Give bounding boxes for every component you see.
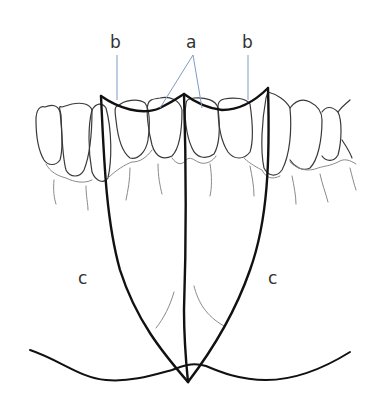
gum-line xyxy=(46,150,356,328)
center-midline xyxy=(184,94,188,382)
right-mandible-line xyxy=(188,88,269,382)
chin-curve xyxy=(30,350,350,380)
label-b-left: b xyxy=(110,32,121,52)
label-c-right: c xyxy=(268,268,277,288)
label-c-left: c xyxy=(78,268,87,288)
teeth-crowns xyxy=(36,92,352,181)
left-mandible-line xyxy=(101,96,188,382)
label-a: a xyxy=(186,32,196,52)
dental-diagram: b a b c c xyxy=(0,0,377,405)
label-b-right: b xyxy=(242,32,253,52)
